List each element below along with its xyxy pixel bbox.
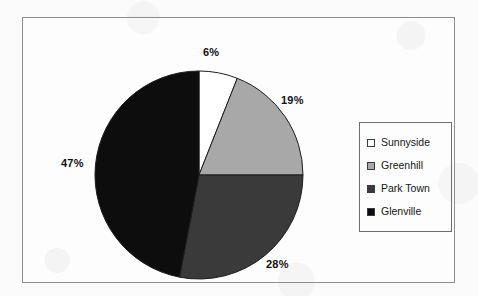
legend-item-park-town: Park Town: [367, 177, 451, 200]
chart-legend: Sunnyside Greenhill Park Town Glenville: [359, 122, 452, 232]
pie-slices: [95, 71, 303, 279]
slice-value-label-park-town: 28%: [266, 258, 289, 270]
legend-item-sunnyside: Sunnyside: [367, 131, 451, 154]
pie-slice-glenville: [95, 71, 199, 277]
pie-svg: [94, 70, 304, 280]
pie-chart: [94, 70, 304, 280]
legend-label-greenhill: Greenhill: [381, 154, 423, 177]
slice-value-label-greenhill: 19%: [281, 94, 304, 106]
legend-swatch-sunnyside: [367, 139, 375, 147]
slice-value-label-sunnyside: 6%: [203, 46, 219, 58]
chart-frame: 6% 19% 28% 47% Sunnyside Greenhill Park …: [22, 17, 455, 283]
legend-swatch-park-town: [367, 185, 375, 193]
legend-label-park-town: Park Town: [381, 177, 430, 200]
legend-label-sunnyside: Sunnyside: [381, 131, 430, 154]
legend-item-glenville: Glenville: [367, 200, 451, 223]
legend-item-greenhill: Greenhill: [367, 154, 451, 177]
legend-swatch-glenville: [367, 208, 375, 216]
legend-label-glenville: Glenville: [381, 200, 421, 223]
legend-swatch-greenhill: [367, 162, 375, 170]
slice-value-label-glenville: 47%: [61, 157, 84, 169]
